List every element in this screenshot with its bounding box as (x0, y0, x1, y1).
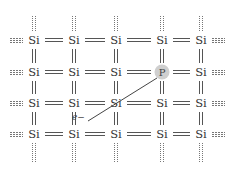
free-electron-label: e− (72, 112, 85, 122)
electron-path-line (0, 0, 228, 172)
